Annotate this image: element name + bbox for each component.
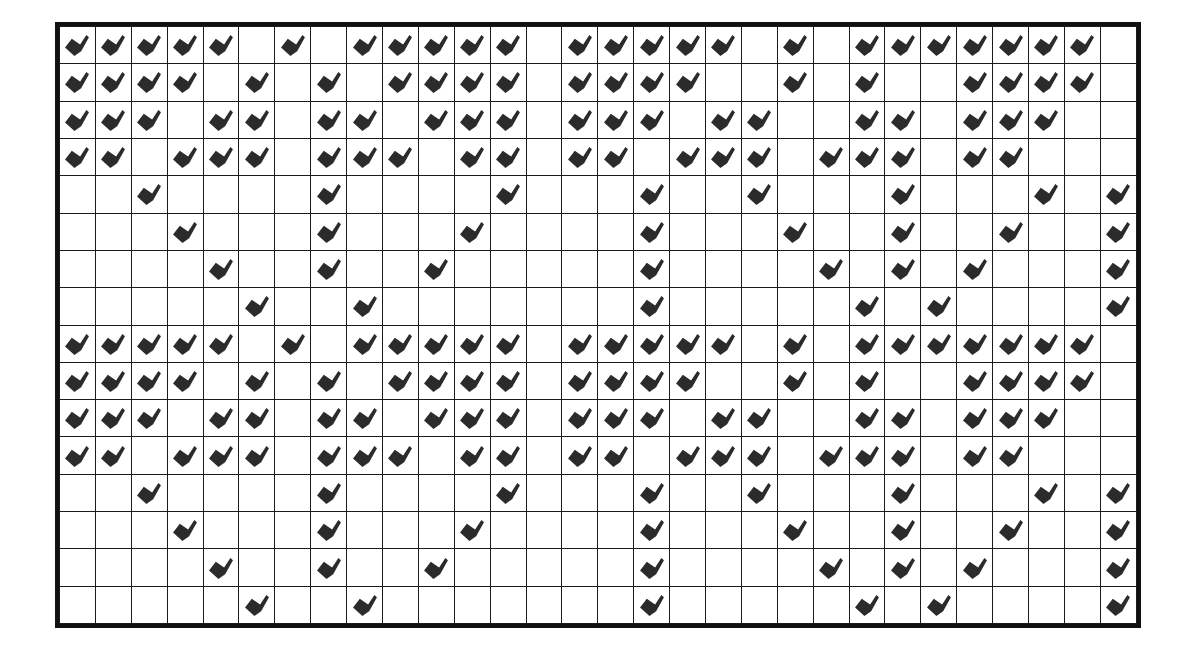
checkmark-glyph	[352, 32, 378, 58]
checkmark-glyph	[172, 368, 198, 394]
grid-row	[60, 362, 1137, 399]
grid-cell	[921, 549, 957, 586]
checkmark-glyph	[675, 69, 701, 95]
grid-row	[60, 400, 1137, 437]
grid-cell	[1100, 586, 1136, 623]
grid-cell	[670, 437, 706, 474]
grid-cell	[1029, 437, 1065, 474]
grid-cell	[1100, 437, 1136, 474]
checkmark-glyph	[998, 69, 1024, 95]
checkmark-glyph	[710, 443, 736, 469]
checkmark-glyph	[423, 368, 449, 394]
grid-cell	[634, 138, 670, 175]
grid-cell	[1029, 288, 1065, 325]
checkmark-glyph	[1105, 480, 1131, 506]
grid-cell	[1100, 400, 1136, 437]
grid-row	[60, 101, 1137, 138]
grid-cell	[741, 27, 777, 64]
grid-cell	[993, 138, 1029, 175]
grid-cell	[1064, 586, 1100, 623]
checkmark-glyph	[1105, 592, 1131, 618]
grid-cell	[311, 288, 347, 325]
grid-cell	[706, 101, 742, 138]
grid-cell	[562, 101, 598, 138]
grid-cell	[885, 27, 921, 64]
grid-cell	[490, 250, 526, 287]
checkmark-glyph	[567, 368, 593, 394]
checkmark-glyph	[64, 144, 90, 170]
grid-cell	[813, 325, 849, 362]
checkmark-glyph	[459, 405, 485, 431]
checkmark-glyph	[890, 107, 916, 133]
grid-cell	[203, 64, 239, 101]
grid-cell	[454, 250, 490, 287]
grid-cell	[347, 325, 383, 362]
checkmark-glyph	[423, 405, 449, 431]
grid-cell	[418, 288, 454, 325]
grid-cell	[203, 27, 239, 64]
grid-row	[60, 138, 1137, 175]
checkmark-glyph	[998, 219, 1024, 245]
grid-cell	[526, 325, 562, 362]
checkmark-glyph	[962, 368, 988, 394]
checkmark-glyph	[603, 331, 629, 357]
grid-cell	[1029, 549, 1065, 586]
grid-cell	[885, 250, 921, 287]
checkmark-glyph	[136, 32, 162, 58]
checkmark-glyph	[998, 107, 1024, 133]
grid-cell	[562, 288, 598, 325]
grid-cell	[598, 176, 634, 213]
checkmark-glyph	[962, 443, 988, 469]
grid-cell	[95, 138, 131, 175]
checkmark-glyph	[1069, 69, 1095, 95]
checkmark-glyph	[710, 331, 736, 357]
grid-cell	[347, 586, 383, 623]
grid-cell	[706, 176, 742, 213]
grid-cell	[347, 288, 383, 325]
grid-cell	[849, 288, 885, 325]
checkmark-glyph	[423, 256, 449, 282]
checkmark-glyph	[387, 331, 413, 357]
grid-cell	[849, 362, 885, 399]
grid-cell	[598, 586, 634, 623]
checkmark-glyph	[352, 331, 378, 357]
checkmark-glyph	[890, 555, 916, 581]
checkmark-glyph	[495, 69, 521, 95]
grid-cell	[60, 101, 96, 138]
grid-cell	[670, 64, 706, 101]
checkmark-glyph	[459, 443, 485, 469]
grid-cell	[275, 400, 311, 437]
checkmark-glyph	[603, 69, 629, 95]
grid-cell	[418, 362, 454, 399]
grid-cell	[454, 325, 490, 362]
checkmark-glyph	[172, 443, 198, 469]
grid-cell	[562, 400, 598, 437]
grid-cell	[167, 512, 203, 549]
checkmark-glyph	[962, 405, 988, 431]
grid-cell	[239, 27, 275, 64]
checkmark-glyph	[316, 181, 342, 207]
grid-cell	[957, 27, 993, 64]
grid-cell	[598, 138, 634, 175]
checkmark-glyph	[854, 107, 880, 133]
grid-cell	[167, 288, 203, 325]
grid-cell	[60, 176, 96, 213]
grid-cell	[598, 101, 634, 138]
grid-cell	[741, 586, 777, 623]
checkmark-glyph	[316, 517, 342, 543]
grid-cell	[95, 288, 131, 325]
grid-cell	[347, 27, 383, 64]
checkmark-glyph	[316, 219, 342, 245]
checkmark-glyph	[316, 256, 342, 282]
grid-cell	[454, 213, 490, 250]
checkmark-glyph	[208, 144, 234, 170]
checkmark-glyph	[136, 69, 162, 95]
checkmark-glyph	[782, 32, 808, 58]
grid-cell	[741, 474, 777, 511]
checkmark-glyph	[244, 293, 270, 319]
grid-cell	[275, 64, 311, 101]
grid-cell	[275, 512, 311, 549]
checkmark-glyph	[387, 368, 413, 394]
grid-cell	[849, 250, 885, 287]
grid-cell	[347, 64, 383, 101]
